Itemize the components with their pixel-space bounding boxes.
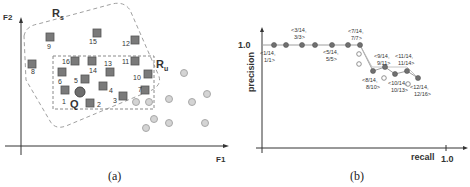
- svg-text:2: 2: [97, 101, 101, 108]
- svg-text:<11/14,11/14>: <11/14,11/14>: [395, 53, 415, 66]
- svg-text:10: 10: [133, 74, 141, 81]
- svg-text:4: 4: [109, 87, 113, 94]
- svg-text:1: 1: [62, 98, 66, 105]
- pr-annotations: <1/14,1/1> <3/14,3/3> <5/14,5/5> <7/14,7…: [260, 27, 431, 97]
- query-point: [75, 87, 85, 97]
- caption-a: (a): [108, 169, 121, 183]
- svg-text:<7/14,7/7>: <7/14,7/7>: [348, 28, 364, 41]
- svg-text:<8/14,8/10>: <8/14,8/10>: [362, 77, 380, 90]
- f2-axis-label: F2: [3, 13, 13, 22]
- svg-text:<10/14,10/13>: <10/14,10/13>: [388, 80, 408, 93]
- precision-tick-label: 1.0: [238, 40, 251, 50]
- rs-label: Rs: [52, 7, 64, 21]
- svg-text:15: 15: [89, 38, 97, 45]
- svg-text:3: 3: [113, 97, 117, 104]
- svg-text:12: 12: [122, 40, 130, 47]
- svg-text:8: 8: [31, 68, 35, 75]
- query-label: Q: [70, 98, 79, 110]
- panel-b: 1.0 precision recall 1.0 <1/14,1/1> <3/1…: [238, 27, 468, 183]
- svg-text:<9/14,9/11>: <9/14,9/11>: [374, 53, 391, 66]
- precision-axis-arrow-icon: [260, 27, 264, 32]
- svg-text:13: 13: [104, 60, 112, 67]
- svg-text:6: 6: [58, 78, 62, 85]
- irrelevant-points: [133, 70, 211, 132]
- f2-axis-arrow-icon: [19, 17, 23, 23]
- svg-text:<3/14,3/3>: <3/14,3/3>: [291, 27, 307, 40]
- recall-axis-arrow-icon: [463, 146, 468, 150]
- recall-axis-label: recall: [411, 152, 435, 162]
- panel-a: F2 F1 Rs Ru Q 9 15: [3, 3, 229, 183]
- ru-label: Ru: [156, 58, 168, 72]
- svg-text:16: 16: [62, 58, 70, 65]
- f1-axis-arrow-icon: [223, 144, 229, 148]
- svg-text:7: 7: [138, 86, 142, 93]
- svg-text:14: 14: [89, 67, 97, 74]
- svg-text:<5/14,5/5>: <5/14,5/5>: [323, 49, 339, 62]
- figure: F2 F1 Rs Ru Q 9 15: [0, 0, 470, 187]
- f1-axis-label: F1: [216, 155, 226, 164]
- svg-text:5: 5: [74, 77, 78, 84]
- svg-text:<12/14,12/16>: <12/14,12/16>: [410, 84, 431, 97]
- svg-text:11: 11: [122, 58, 129, 65]
- recall-tick-label: 1.0: [441, 154, 454, 164]
- precision-axis-label: precision: [246, 52, 256, 92]
- caption-b: (b): [350, 169, 364, 183]
- svg-text:9: 9: [47, 43, 51, 50]
